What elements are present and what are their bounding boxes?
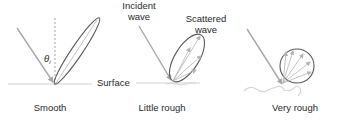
scattering-diagram: θi Smooth Surface Incident wave Scattere… bbox=[0, 0, 338, 122]
incident-arrow-icon bbox=[247, 29, 282, 84]
scattered-label-line2: wave bbox=[194, 24, 217, 35]
incident-label-line1: Incident bbox=[122, 0, 156, 11]
rough-surface-line bbox=[244, 86, 301, 96]
panel-little-rough: Incident wave Scattered wave Little roug… bbox=[122, 0, 226, 113]
caption-very-rough: Very rough bbox=[272, 102, 318, 113]
caption-smooth: Smooth bbox=[34, 102, 67, 113]
angle-label: θi bbox=[44, 53, 51, 65]
caption-little-rough: Little rough bbox=[138, 102, 185, 113]
scattered-label-line1: Scattered bbox=[186, 13, 227, 24]
specular-arrow-icon bbox=[56, 20, 97, 83]
incident-arrow-icon bbox=[139, 26, 171, 80]
surface-label: Surface bbox=[97, 77, 130, 88]
scatter-arrow-icon bbox=[173, 56, 201, 81]
incident-label-line2: wave bbox=[127, 11, 150, 22]
panel-very-rough: Very rough bbox=[244, 29, 318, 113]
panel-smooth: θi Smooth bbox=[8, 15, 104, 113]
